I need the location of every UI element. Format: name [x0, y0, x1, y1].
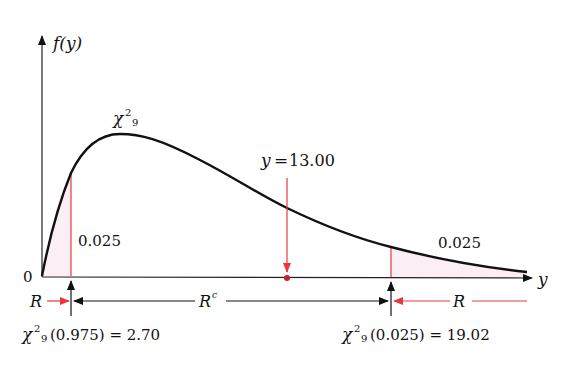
left-rejection-label: R	[29, 292, 42, 311]
left-critical-value-label: χ 2 9 (0.975) = 2.70	[21, 323, 160, 344]
svg-text:=: =	[274, 150, 288, 170]
y-axis-label: f(y)	[51, 33, 82, 53]
right-rejection-label: R	[452, 292, 465, 311]
observed-value-dot	[284, 275, 290, 281]
distribution-label: χ 2 9	[112, 107, 138, 128]
svg-text:13.00: 13.00	[289, 151, 335, 170]
observed-value-label: y = 13.00	[260, 150, 335, 170]
right-critical-value-label: χ 2 9 (0.025) = 19.02	[341, 323, 490, 344]
origin-label: 0	[23, 268, 33, 286]
svg-text:9: 9	[361, 333, 367, 344]
svg-text:9: 9	[41, 333, 47, 344]
right-tail-area-label: 0.025	[438, 234, 481, 252]
svg-text:2: 2	[354, 323, 360, 334]
svg-text:2: 2	[125, 107, 131, 118]
svg-text:y: y	[260, 150, 271, 170]
svg-text:χ: χ	[112, 108, 125, 128]
svg-text:2: 2	[34, 323, 40, 334]
svg-text:χ: χ	[341, 324, 354, 344]
x-axis-label: y	[537, 269, 548, 289]
chi-square-diagram: f(y) y 0 χ 2 9 y = 13.00 0.025 0.025 R R…	[0, 0, 573, 371]
svg-text:χ: χ	[21, 324, 34, 344]
svg-text:c: c	[212, 290, 217, 300]
svg-text:9: 9	[132, 117, 138, 128]
svg-text:R: R	[198, 292, 211, 311]
acceptance-region-label: R c	[198, 290, 217, 311]
left-tail-area-label: 0.025	[78, 232, 121, 250]
svg-text:(0.025) = 19.02: (0.025) = 19.02	[370, 326, 490, 344]
svg-text:(0.975) = 2.70: (0.975) = 2.70	[50, 326, 160, 344]
